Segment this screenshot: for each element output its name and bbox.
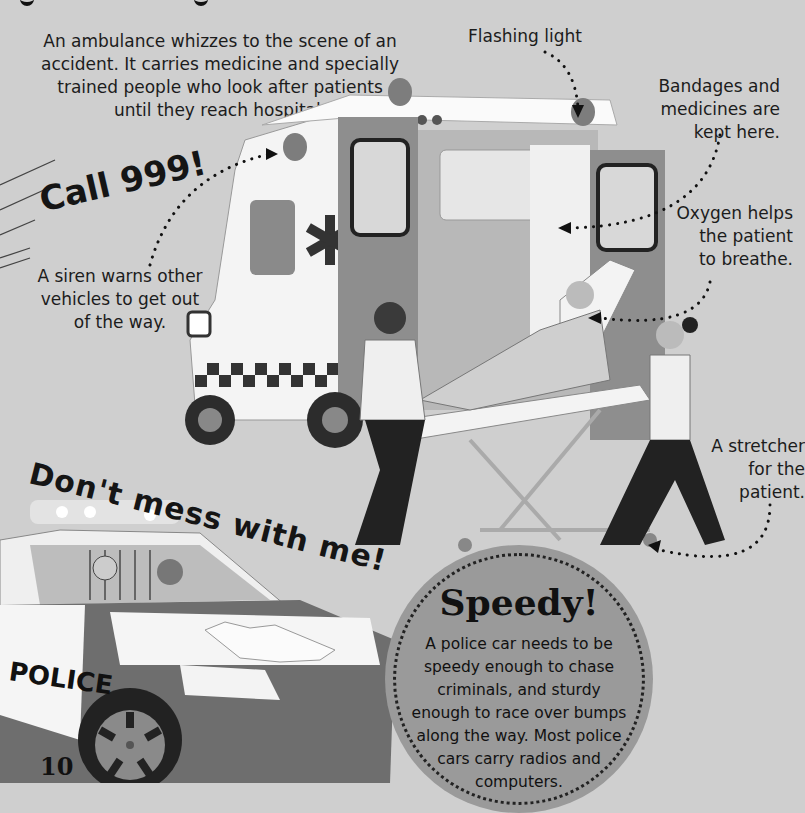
- badge-body: A police car needs to be speedy enough t…: [399, 633, 639, 794]
- label-line: the patient: [668, 225, 793, 248]
- label-line: medicines are: [640, 98, 780, 121]
- label-line: kept here.: [640, 121, 780, 144]
- label-line: of the way.: [25, 311, 215, 334]
- label-line: A stretcher: [690, 435, 805, 458]
- label-flashing-light: Flashing light: [450, 25, 600, 48]
- badge-line: speedy enough to chase: [399, 656, 639, 679]
- speedy-fact-badge: Speedy! A police car needs to be speedy …: [385, 545, 653, 813]
- page-number: 10: [40, 752, 73, 781]
- label-siren: A siren warns other vehicles to get out …: [25, 265, 215, 334]
- badge-line: criminals, and sturdy: [399, 679, 639, 702]
- label-bandages: Bandages and medicines are kept here.: [640, 75, 780, 144]
- label-line: to breathe.: [668, 248, 793, 271]
- badge-line: cars carry radios and: [399, 748, 639, 771]
- badge-title: Speedy!: [385, 581, 653, 623]
- badge-line: along the way. Most police: [399, 725, 639, 748]
- label-line: A siren warns other: [25, 265, 215, 288]
- badge-line: computers.: [399, 771, 639, 794]
- label-stretcher: A stretcher for the patient.: [690, 435, 805, 504]
- badge-line: enough to race over bumps: [399, 702, 639, 725]
- label-line: Oxygen helps: [668, 202, 793, 225]
- badge-line: A police car needs to be: [399, 633, 639, 656]
- label-line: Bandages and: [640, 75, 780, 98]
- label-line: patient.: [690, 481, 805, 504]
- label-line: for the: [690, 458, 805, 481]
- label-oxygen: Oxygen helps the patient to breathe.: [668, 202, 793, 271]
- label-line: vehicles to get out: [25, 288, 215, 311]
